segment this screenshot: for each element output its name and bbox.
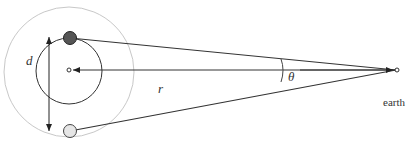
light-body [64, 125, 77, 138]
dark-body [64, 32, 77, 45]
label-d: d [26, 53, 33, 69]
label-r: r [158, 81, 163, 97]
label-theta: θ [288, 69, 294, 85]
parallax-diagram: d r θ earth [0, 0, 415, 144]
label-earth: earth [383, 96, 405, 108]
diagram-canvas [0, 0, 415, 144]
sight-line-top [70, 38, 396, 70]
center-point [67, 68, 71, 72]
sight-line-bottom [70, 70, 396, 131]
earth-point [395, 68, 399, 72]
